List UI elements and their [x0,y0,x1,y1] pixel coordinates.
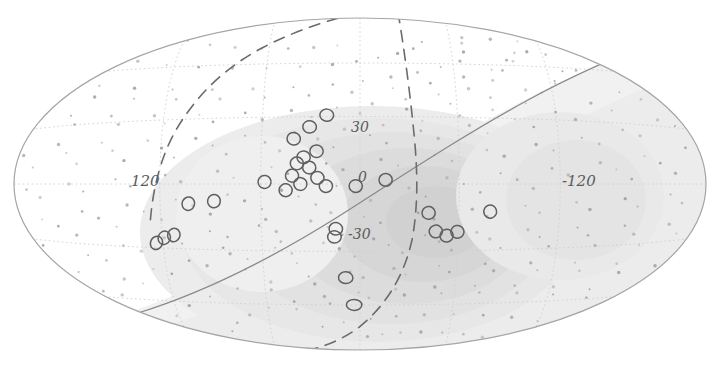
catalog-source-dot [341,168,344,171]
catalog-source-dot [638,134,641,137]
catalog-source-dot [403,293,406,296]
catalog-source-dot [41,218,43,220]
catalog-source-dot [681,202,684,205]
catalog-source-dot [354,256,356,258]
catalog-source-dot [425,195,427,197]
catalog-source-dot [295,308,298,311]
catalog-source-dot [270,288,273,291]
catalog-source-dot [122,159,125,162]
catalog-source-dot [574,262,576,264]
catalog-source-dot [270,166,272,168]
catalog-source-dot [266,67,268,69]
catalog-source-dot [552,294,554,296]
catalog-source-dot [433,285,436,288]
catalog-source-dot [218,97,221,100]
catalog-source-dot [489,96,492,99]
catalog-source-dot [209,44,212,47]
catalog-source-dot [377,57,379,59]
catalog-source-dot [589,288,591,290]
catalog-source-dot [114,178,116,180]
catalog-source-dot [539,236,541,238]
catalog-source-dot [574,118,577,121]
catalog-source-dot [551,167,554,170]
catalog-source-dot [290,109,293,112]
catalog-source-dot [448,271,451,274]
catalog-source-dot [482,314,485,317]
latitude-label-0: 0 [358,169,367,185]
catalog-source-dot [314,203,317,206]
catalog-source-dot [75,233,78,236]
catalog-source-dot [491,69,493,71]
catalog-source-dot [441,331,443,333]
catalog-source-dot [329,211,332,214]
catalog-source-dot [166,64,168,66]
catalog-source-dot [389,75,392,78]
catalog-source-dot [82,190,84,192]
catalog-source-dot [405,273,407,275]
catalog-source-dot [123,277,126,280]
catalog-source-dot [529,261,532,264]
catalog-source-dot [624,224,627,227]
catalog-source-dot [211,88,214,91]
catalog-source-dot [369,134,371,136]
sky-map-figure: 120 -120 30 0 -30 [0,0,720,368]
catalog-source-dot [205,264,208,267]
catalog-source-dot [397,165,399,167]
catalog-source-dot [547,245,550,248]
catalog-source-dot [392,87,394,89]
catalog-source-dot [513,284,516,287]
catalog-source-dot [599,161,602,164]
catalog-source-dot [421,41,423,43]
catalog-source-dot [164,174,167,177]
catalog-source-dot [617,271,620,274]
catalog-source-dot [554,82,556,84]
catalog-source-dot [644,155,646,157]
catalog-source-dot [194,137,197,140]
catalog-source-dot [299,65,302,68]
catalog-source-dot [197,66,200,69]
catalog-source-dot [87,254,89,256]
catalog-source-dot [440,66,442,68]
catalog-source-dot [532,126,535,129]
catalog-source-dot [638,244,640,246]
catalog-source-dot [101,142,103,144]
catalog-source-dot [684,147,687,150]
catalog-source-dot [379,221,382,224]
catalog-source-dot [323,295,326,298]
catalog-source-dot [405,107,408,110]
catalog-source-dot [287,47,290,50]
catalog-source-dot [379,158,382,161]
catalog-source-dot [575,69,578,72]
catalog-source-dot [404,98,407,101]
catalog-source-dot [331,83,334,86]
catalog-source-dot [181,242,183,244]
catalog-source-dot [421,120,423,122]
catalog-source-dot [313,282,316,285]
catalog-source-dot [269,280,272,283]
catalog-source-dot [593,244,596,247]
catalog-source-dot [81,210,84,213]
catalog-source-dot [394,288,397,291]
catalog-source-dot [258,224,261,227]
catalog-source-dot [233,46,236,49]
catalog-source-dot [38,196,41,199]
catalog-source-dot [621,128,624,131]
catalog-source-dot [67,182,70,185]
catalog-source-dot [536,269,538,271]
catalog-source-dot [491,79,494,82]
catalog-source-dot [268,307,270,309]
catalog-source-dot [73,123,76,126]
catalog-source-dot [491,109,494,112]
catalog-source-dot [105,259,108,262]
catalog-source-dot [251,87,254,90]
catalog-source-dot [381,333,383,335]
catalog-source-dot [264,97,266,99]
catalog-source-dot [458,114,461,117]
catalog-source-dot [492,269,495,272]
catalog-source-dot [474,285,476,287]
catalog-source-dot [416,71,419,74]
catalog-source-dot [424,234,426,236]
catalog-source-dot [396,52,399,55]
catalog-source-dot [468,124,471,127]
catalog-source-dot [171,272,174,275]
